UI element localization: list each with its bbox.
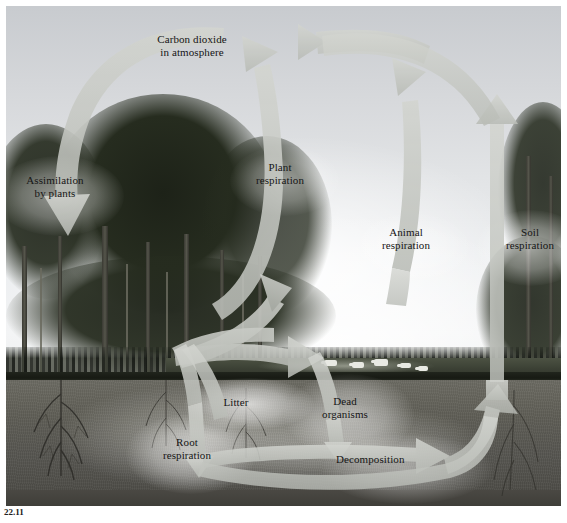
grazing-animal (418, 366, 428, 371)
label-decomposition: Decomposition (336, 453, 426, 466)
grazing-animal (400, 363, 411, 368)
glow-decomposition (322, 434, 492, 504)
root-system (476, 390, 561, 502)
scene-photograph: Carbon dioxide in atmosphere Assimilatio… (6, 6, 561, 506)
label-plant-respiration: Plant respiration (244, 161, 316, 186)
label-animal-respiration: Animal respiration (366, 226, 446, 251)
label-carbon-dioxide-in-atmosphere: Carbon dioxide in atmosphere (144, 33, 240, 58)
label-soil-respiration: Soil respiration (493, 226, 561, 251)
label-root-respiration: Root respiration (149, 436, 225, 461)
figure-caption: 22.11 (4, 507, 24, 517)
grazing-animal (374, 359, 388, 366)
label-assimilation-by-plants: Assimilation by plants (8, 174, 102, 199)
grazing-animal (324, 360, 337, 366)
figure-carbon-cycle: Carbon dioxide in atmosphere Assimilatio… (0, 0, 567, 523)
label-litter: Litter (212, 396, 260, 409)
root-system (16, 380, 136, 490)
figure-caption-number: 22.11 (4, 507, 24, 517)
grazing-animal (352, 362, 364, 368)
label-dead-organisms: Dead organisms (306, 395, 384, 420)
